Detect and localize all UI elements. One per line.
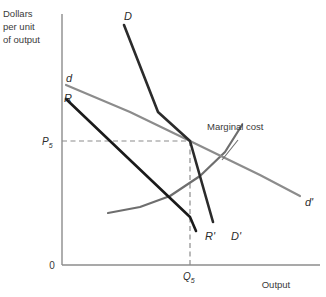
curve-label-D-prime: D': [231, 230, 242, 242]
y-axis-title-line1: Dollars: [3, 8, 33, 19]
curve-label-R-prime: R': [205, 230, 216, 242]
origin-label: 0: [49, 260, 55, 271]
marginal-cost-curve: [108, 125, 242, 213]
price-tick-label: P5: [42, 136, 53, 149]
curve-label-R: R: [64, 92, 72, 104]
curve-label-D: D: [124, 10, 132, 22]
marginal-cost-annotation: Marginal cost: [207, 121, 264, 132]
y-axis-title-line2: per unit: [3, 21, 35, 32]
price-tick-subscript: 5: [49, 142, 53, 149]
x-axis-title: Output: [262, 279, 291, 290]
curve-label-d: d: [66, 72, 73, 84]
marginal-revenue-curve-r: [66, 99, 196, 231]
quantity-tick-label: Q5: [183, 271, 195, 284]
curve-label-d-prime: d': [305, 196, 314, 208]
market-demand-curve-D: [124, 25, 213, 222]
y-axis-title-line3: of output: [3, 34, 40, 45]
chart-canvas: Dollars per unit of output Output 0 P5 Q…: [0, 0, 326, 297]
figure-container: Dollars per unit of output Output 0 P5 Q…: [0, 0, 326, 297]
quantity-tick-subscript: 5: [191, 277, 195, 284]
